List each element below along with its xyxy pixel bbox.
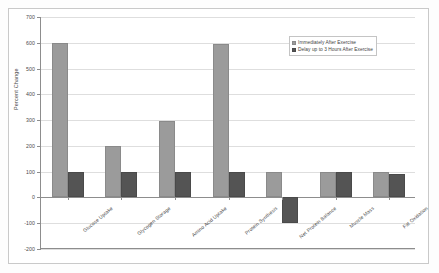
- bar: [320, 172, 336, 198]
- bar: [373, 172, 389, 198]
- x-tick-mark: [175, 197, 176, 200]
- bar: [52, 43, 68, 198]
- x-tick-mark: [282, 197, 283, 200]
- y-tick-label: -100: [24, 220, 35, 226]
- x-tick-mark: [121, 197, 122, 200]
- bar: [159, 121, 175, 197]
- y-tick-mark: [37, 249, 41, 250]
- chart-legend: Immediately After Exercise Delay up to 3…: [289, 36, 377, 56]
- legend-item-immediate: Immediately After Exercise: [292, 39, 373, 46]
- x-tick-mark: [389, 197, 390, 200]
- legend-swatch-icon-immediate: [292, 41, 296, 45]
- y-tick-label: 700: [26, 14, 35, 20]
- bar: [229, 172, 245, 198]
- y-tick-label: -200: [24, 246, 35, 252]
- legend-label-delayed: Delay up to 3 Hours After Exercise: [298, 47, 373, 52]
- legend-swatch-icon-delayed: [292, 48, 296, 52]
- bar: [121, 172, 137, 198]
- bar: [105, 146, 121, 198]
- bar: [68, 172, 84, 198]
- bar: [282, 197, 298, 223]
- x-tick-mark: [229, 197, 230, 200]
- y-tick-label: 200: [26, 143, 35, 149]
- y-tick-label: 400: [26, 91, 35, 97]
- bar-chart: Percent Change -200-10001002003004005006…: [0, 0, 439, 273]
- y-tick-label: 300: [26, 117, 35, 123]
- bar: [266, 172, 282, 198]
- legend-item-delayed: Delay up to 3 Hours After Exercise: [292, 46, 373, 53]
- y-axis-title: Percent Change: [13, 68, 19, 110]
- bar: [389, 174, 405, 197]
- bar: [336, 172, 352, 198]
- gridline: [41, 249, 415, 250]
- x-tick-mark: [336, 197, 337, 200]
- y-tick-label: 500: [26, 66, 35, 72]
- bar: [175, 172, 191, 198]
- legend-label-immediate: Immediately After Exercise: [298, 40, 356, 45]
- y-tick-label: 100: [26, 169, 35, 175]
- y-tick-label: 600: [26, 40, 35, 46]
- bar: [213, 44, 229, 197]
- x-tick-mark: [68, 197, 69, 200]
- y-tick-label: 0: [32, 194, 35, 200]
